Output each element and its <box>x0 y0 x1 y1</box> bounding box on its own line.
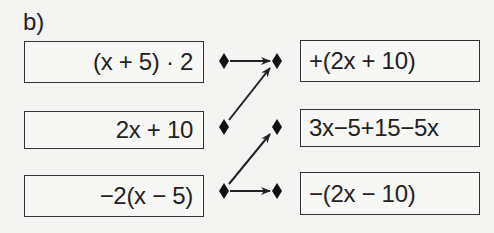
diamond-left-1-icon[interactable] <box>219 53 229 69</box>
connection-layer <box>0 0 494 233</box>
diamond-right-3-icon[interactable] <box>272 183 282 199</box>
arrow-left2-to-right1 <box>229 68 270 120</box>
diamond-right-2-icon[interactable] <box>272 119 282 135</box>
diamond-left-2-icon[interactable] <box>219 119 229 135</box>
diamond-right-1-icon[interactable] <box>272 53 282 69</box>
arrow-left3-to-right2 <box>229 134 270 184</box>
diamond-left-3-icon[interactable] <box>219 183 229 199</box>
